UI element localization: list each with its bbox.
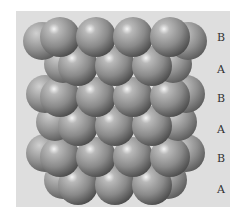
layer-label-6: A (213, 184, 229, 196)
sphere (40, 17, 80, 57)
layer-label-1: B (213, 32, 229, 44)
layer-label-2: A (213, 64, 229, 76)
layer-label-3: B (213, 93, 229, 105)
sphere (113, 17, 153, 57)
sphere (150, 17, 190, 57)
layer-label-4: A (213, 124, 229, 136)
sphere-stacking-diagram (0, 0, 240, 221)
sphere (76, 17, 116, 57)
layer-label-5: B (213, 153, 229, 165)
